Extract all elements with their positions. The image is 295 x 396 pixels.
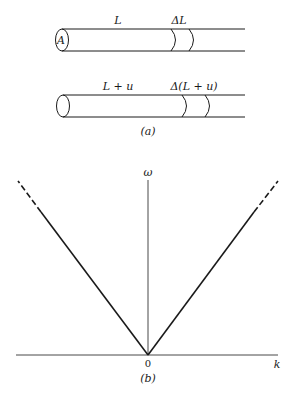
caption-a: (a) (140, 125, 155, 138)
omega-axis-label: ω (144, 166, 153, 179)
right-branch-dashed (254, 181, 278, 212)
tube-bottom-end-ellipse (57, 95, 70, 117)
origin-label: 0 (145, 358, 151, 369)
dispersion-plot: ω k 0 (16, 166, 281, 371)
element-label-bottom: Δ(L + u) (169, 80, 217, 93)
tube-top-element-right-arc (189, 29, 194, 51)
length-label-bottom: L + u (102, 80, 134, 93)
tube-top: A L ΔL (56, 14, 246, 51)
k-axis-label: k (274, 358, 281, 371)
tube-bottom: L + u Δ(L + u) (57, 80, 246, 117)
caption-b: (b) (140, 372, 156, 385)
cross-section-label: A (56, 34, 65, 47)
element-label-top: ΔL (170, 14, 186, 27)
right-branch-solid (148, 212, 254, 355)
length-label-top: L (113, 14, 121, 27)
tube-bottom-element-left-arc (182, 95, 187, 117)
figure-canvas: A L ΔL L + u Δ(L + u) (a) ω k 0 (b) (0, 0, 295, 396)
left-branch-solid (41, 212, 148, 355)
tube-bottom-element-right-arc (205, 95, 210, 117)
tube-top-element-left-arc (171, 29, 176, 51)
left-branch-dashed (18, 181, 41, 212)
